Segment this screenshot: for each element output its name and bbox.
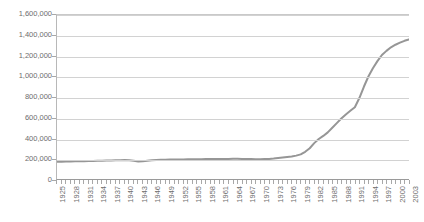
x-axis-tick <box>251 180 252 184</box>
x-axis-tick <box>350 180 351 184</box>
gridline <box>57 160 409 161</box>
x-axis-tick <box>346 180 347 184</box>
x-axis-tick <box>119 180 120 184</box>
x-axis-tick <box>174 180 175 184</box>
x-axis-tick <box>391 180 392 184</box>
y-axis-tick-label: 600,000 <box>0 114 52 122</box>
x-axis-tick-label: 1928 <box>73 186 81 203</box>
y-axis-tick-label: 400,000 <box>0 135 52 143</box>
x-axis-tick <box>128 180 129 184</box>
x-axis-tick <box>359 180 360 184</box>
x-axis-tick-label: 1976 <box>290 186 298 203</box>
x-axis-tick-label: 1952 <box>182 186 190 203</box>
x-axis-tick <box>115 180 116 184</box>
x-axis-tick <box>341 180 342 184</box>
chart-title-cropped <box>0 0 424 7</box>
gridline <box>57 57 409 58</box>
x-axis-tick <box>255 180 256 184</box>
x-axis-tick-label: 1946 <box>154 186 162 203</box>
plot-area <box>56 14 409 180</box>
x-axis-tick <box>395 180 396 184</box>
series-polyline <box>57 39 409 161</box>
x-axis-tick <box>314 180 315 184</box>
x-axis-tick <box>83 180 84 184</box>
x-axis-tick <box>246 180 247 184</box>
x-axis-tick <box>147 180 148 184</box>
x-axis-tick <box>377 180 378 184</box>
x-axis-tick <box>160 180 161 184</box>
x-axis-tick <box>386 180 387 184</box>
x-axis-tick <box>237 180 238 184</box>
gridline <box>57 77 409 78</box>
x-axis-tick-label: 1967 <box>249 186 257 203</box>
x-axis-tick-label: 2003 <box>412 186 420 203</box>
x-axis-tick <box>106 180 107 184</box>
x-axis-tick <box>74 180 75 184</box>
x-axis-tick-label: 1958 <box>209 186 217 203</box>
x-axis-tick <box>142 180 143 184</box>
x-axis-tick-label: 1982 <box>317 186 325 203</box>
x-axis: 1925192819311934193719401943194619491952… <box>56 180 409 222</box>
x-axis-tick <box>400 180 401 184</box>
x-axis-tick <box>101 180 102 184</box>
x-axis-tick <box>92 180 93 184</box>
x-axis-tick <box>165 180 166 184</box>
x-axis-tick <box>124 180 125 184</box>
x-axis-tick <box>332 180 333 184</box>
gridline <box>57 15 409 16</box>
x-axis-tick <box>214 180 215 184</box>
x-axis-tick <box>273 180 274 184</box>
x-axis-tick <box>88 180 89 184</box>
x-axis-tick <box>169 180 170 184</box>
x-axis-tick <box>404 180 405 184</box>
x-axis-tick <box>151 180 152 184</box>
x-axis-tick-label: 1973 <box>277 186 285 203</box>
x-axis-tick <box>97 180 98 184</box>
x-axis-tick <box>309 180 310 184</box>
x-axis-tick-label: 1943 <box>141 186 149 203</box>
x-axis-tick <box>382 180 383 184</box>
x-axis-tick <box>137 180 138 184</box>
series-line <box>57 15 409 179</box>
x-axis-tick <box>133 180 134 184</box>
x-axis-tick <box>233 180 234 184</box>
line-chart: 0200,000400,000600,000800,0001,000,0001,… <box>0 0 424 222</box>
x-axis-tick <box>318 180 319 184</box>
x-axis-tick-label: 1937 <box>114 186 122 203</box>
x-axis-tick-label: 1988 <box>345 186 353 203</box>
x-axis-tick <box>282 180 283 184</box>
x-axis-tick <box>110 180 111 184</box>
x-axis-tick <box>196 180 197 184</box>
x-axis-tick <box>287 180 288 184</box>
y-axis-tick-label: 1,200,000 <box>0 52 52 60</box>
x-axis-tick <box>305 180 306 184</box>
x-axis-tick <box>296 180 297 184</box>
x-axis-tick-label: 1991 <box>358 186 366 203</box>
x-axis-tick <box>337 180 338 184</box>
x-axis-tick <box>242 180 243 184</box>
x-axis-tick <box>183 180 184 184</box>
x-axis-tick <box>70 180 71 184</box>
x-axis-tick <box>364 180 365 184</box>
x-axis-tick-label: 1970 <box>263 186 271 203</box>
x-axis-tick <box>269 180 270 184</box>
x-axis-tick <box>264 180 265 184</box>
x-axis-tick-label: 1985 <box>331 186 339 203</box>
gridline <box>57 140 409 141</box>
x-axis-tick-label: 1961 <box>222 186 230 203</box>
x-axis-tick <box>278 180 279 184</box>
x-axis-tick <box>291 180 292 184</box>
x-axis-tick-label: 1949 <box>168 186 176 203</box>
x-axis-tick-label: 1925 <box>59 186 67 203</box>
x-axis-tick <box>328 180 329 184</box>
x-axis-tick-label: 1934 <box>100 186 108 203</box>
y-axis-tick-label: 1,600,000 <box>0 10 52 18</box>
x-axis-tick <box>373 180 374 184</box>
x-axis-tick-label: 1997 <box>385 186 393 203</box>
x-axis-tick <box>260 180 261 184</box>
y-axis-tick-label: 200,000 <box>0 155 52 163</box>
y-axis-tick-label: 0 <box>0 176 52 184</box>
y-axis-tick-label: 1,000,000 <box>0 72 52 80</box>
y-axis: 0200,000400,000600,000800,0001,000,0001,… <box>0 0 52 194</box>
y-axis-tick-label: 1,400,000 <box>0 31 52 39</box>
